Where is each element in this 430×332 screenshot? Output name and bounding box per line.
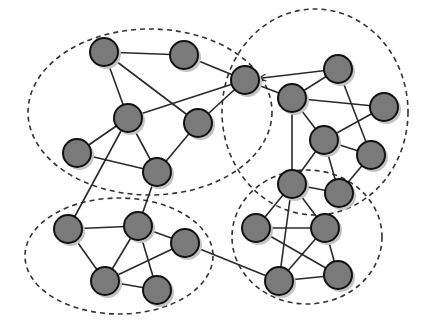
node-circle bbox=[90, 38, 118, 66]
edge-C-S bbox=[68, 118, 128, 229]
node-U bbox=[171, 229, 202, 260]
node-F bbox=[143, 158, 174, 189]
node-circle bbox=[170, 41, 198, 69]
nodes-layer bbox=[54, 38, 401, 307]
node-circle bbox=[143, 276, 171, 304]
node-circle bbox=[143, 158, 171, 186]
node-L bbox=[357, 141, 388, 172]
node-circle bbox=[325, 179, 353, 207]
node-B bbox=[170, 41, 201, 72]
node-J bbox=[370, 93, 401, 124]
node-circle bbox=[278, 170, 306, 198]
node-O bbox=[242, 214, 273, 245]
node-circle bbox=[278, 84, 306, 112]
node-C bbox=[114, 104, 145, 135]
graph-svg bbox=[0, 0, 430, 332]
node-circle bbox=[171, 229, 199, 257]
node-W bbox=[143, 276, 174, 307]
node-circle bbox=[63, 139, 91, 167]
node-H bbox=[278, 84, 309, 115]
edge-C-G bbox=[128, 80, 245, 118]
node-circle bbox=[310, 126, 338, 154]
node-circle bbox=[231, 66, 259, 94]
node-circle bbox=[357, 141, 385, 169]
node-circle bbox=[124, 212, 152, 240]
node-R bbox=[324, 261, 355, 292]
node-A bbox=[90, 38, 121, 69]
network-diagram bbox=[0, 0, 430, 332]
node-circle bbox=[184, 109, 212, 137]
node-circle bbox=[91, 267, 119, 295]
node-T bbox=[124, 212, 155, 243]
node-I bbox=[324, 55, 355, 86]
node-Q bbox=[265, 267, 296, 298]
node-P bbox=[311, 214, 342, 245]
node-G bbox=[231, 66, 262, 97]
node-circle bbox=[242, 214, 270, 242]
node-circle bbox=[54, 215, 82, 243]
edges-layer bbox=[68, 52, 384, 290]
node-circle bbox=[370, 93, 398, 121]
node-V bbox=[91, 267, 122, 298]
node-S bbox=[54, 215, 85, 246]
node-circle bbox=[324, 261, 352, 289]
node-circle bbox=[265, 267, 293, 295]
node-circle bbox=[324, 55, 352, 83]
node-circle bbox=[311, 214, 339, 242]
node-circle bbox=[114, 104, 142, 132]
